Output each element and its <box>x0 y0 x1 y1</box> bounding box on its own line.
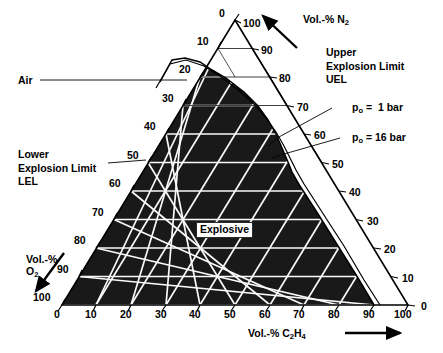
left-tick-80: 80 <box>74 235 86 246</box>
po-1bar-value: 1 bar <box>378 101 403 113</box>
right-tick-80: 80 <box>279 73 291 84</box>
uel-line-1: Upper <box>326 46 404 60</box>
left-tick-90: 90 <box>57 264 69 275</box>
ternary-explosion-diagram: 0 10 20 30 40 50 60 70 80 90 100 0 10 20… <box>0 0 443 353</box>
right-tick-90: 90 <box>261 45 273 56</box>
n2-axis-title: Vol.-% N2 <box>303 13 349 26</box>
lel-line-1: Lower <box>18 148 96 162</box>
uel-line-2: Explosion Limit <box>326 60 404 74</box>
c2h4-axis-title: Vol.-% C2H4 <box>248 327 306 340</box>
left-tick-30: 30 <box>162 93 174 104</box>
bottom-tick-50: 50 <box>224 309 236 320</box>
bottom-tick-90: 90 <box>363 309 375 320</box>
left-tick-70: 70 <box>92 207 104 218</box>
left-tick-20: 20 <box>179 64 191 75</box>
po-1bar-sub: o <box>358 106 363 115</box>
bottom-tick-60: 60 <box>259 309 271 320</box>
lel-line-2: Explosion Limit <box>18 162 96 176</box>
right-tick-20: 20 <box>384 244 396 255</box>
bottom-tick-40: 40 <box>189 309 201 320</box>
left-tick-0: 0 <box>219 8 225 19</box>
po-1bar-label: po = 1 bar <box>352 101 403 115</box>
n2-axis-title-sub: 2 <box>345 18 349 27</box>
bottom-tick-20: 20 <box>120 309 132 320</box>
right-tick-50: 50 <box>332 159 344 170</box>
right-tick-30: 30 <box>367 216 379 227</box>
bottom-tick-80: 80 <box>328 309 340 320</box>
po-16bar-sub: o <box>358 136 363 145</box>
uel-label: Upper Explosion Limit UEL <box>326 46 404 87</box>
lel-label: Lower Explosion Limit LEL <box>18 148 96 189</box>
o2-axis-title: Vol.-% O2 <box>26 253 57 278</box>
left-tick-100: 100 <box>33 292 51 303</box>
o2-axis-title-line1: Vol.-% <box>26 253 57 265</box>
n2-axis-title-text: Vol.-% N <box>303 13 345 25</box>
right-tick-100: 100 <box>243 18 261 29</box>
left-tick-40: 40 <box>144 121 156 132</box>
po-16bar-equals: = <box>366 131 372 143</box>
bottom-tick-70: 70 <box>293 309 305 320</box>
po-16bar-leader-line <box>284 138 340 154</box>
right-tick-40: 40 <box>349 187 361 198</box>
right-tick-10: 10 <box>402 273 414 284</box>
po-1bar-equals: = <box>366 101 372 113</box>
o2-axis-title-sub: 2 <box>34 270 38 279</box>
po-16bar-label: po = 16 bar <box>352 131 406 145</box>
left-tick-10: 10 <box>197 36 209 47</box>
air-label: Air <box>18 74 33 88</box>
right-tick-0: 0 <box>421 301 427 312</box>
bottom-tick-10: 10 <box>85 309 97 320</box>
explosive-region-label: Explosive <box>196 222 253 238</box>
bottom-tick-0: 0 <box>54 309 60 320</box>
c2h4-axis-title-sub1: 2 <box>290 332 294 341</box>
right-tick-60: 60 <box>314 130 326 141</box>
lel-line-3: LEL <box>18 175 96 189</box>
left-tick-50: 50 <box>127 150 139 161</box>
bottom-tick-30: 30 <box>155 309 167 320</box>
right-tick-70: 70 <box>297 102 309 113</box>
c2h4-axis-title-mid: H <box>294 327 302 339</box>
o2-axis-title-line2: O <box>26 265 34 277</box>
left-tick-60: 60 <box>109 178 121 189</box>
c2h4-axis-title-sub2: 4 <box>302 332 306 341</box>
po-16bar-value: 16 bar <box>375 131 406 143</box>
c2h4-axis-title-prefix: Vol.-% C <box>248 327 290 339</box>
bottom-tick-100: 100 <box>394 309 412 320</box>
uel-line-3: UEL <box>326 73 404 87</box>
